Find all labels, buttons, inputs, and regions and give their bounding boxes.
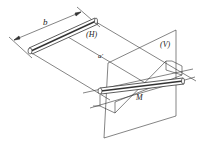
box-left [100, 95, 115, 113]
extension-line-left [9, 37, 32, 58]
label-b: b [43, 17, 48, 27]
arrow-right-icon [75, 12, 81, 16]
label-v: (V) [160, 40, 171, 49]
label-h: (H) [86, 30, 97, 39]
arrow-left-icon [14, 36, 20, 40]
projector-line-right [96, 22, 196, 81]
projection-diagram: b (H) (V) a' M [0, 0, 204, 149]
label-m: M [135, 93, 144, 102]
label-a-prime: a' [98, 52, 104, 60]
diagram-canvas: b (H) (V) a' M [0, 0, 204, 149]
